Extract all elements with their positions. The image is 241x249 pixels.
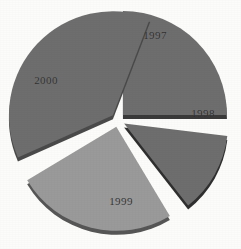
pie-slice-label-2000: 2000 bbox=[34, 74, 58, 86]
pie-slice-label-1999: 1999 bbox=[109, 195, 133, 207]
pie-slice-label-1997: 1997 bbox=[143, 29, 167, 41]
pie-slice-label-1998: 1998 bbox=[191, 107, 215, 119]
pie-chart: 1997 1998 1999 2000 bbox=[0, 0, 241, 249]
pie-chart-canvas bbox=[0, 0, 241, 249]
